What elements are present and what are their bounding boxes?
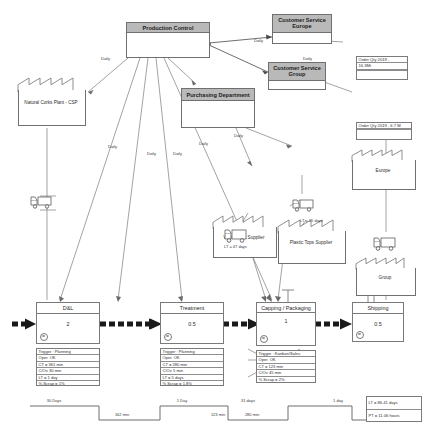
truck-icon-left <box>30 193 56 213</box>
process-3-operators: 0.5 <box>353 314 403 327</box>
schedule-label-2: Daily <box>147 152 156 157</box>
push-arrow-2 <box>223 319 260 330</box>
process-1-operators: 0.5 <box>161 314 223 327</box>
customer-1-label: Group <box>356 275 414 281</box>
schedule-label-1: Daily <box>108 145 117 150</box>
operator-icon <box>260 335 268 343</box>
truck-icon-plastic <box>292 196 318 216</box>
timeline-process-2: 123 min <box>196 412 240 417</box>
data-box-2: Trigger : Kanban/Sales Oper. OK CT = 123… <box>256 350 316 383</box>
operator-icon <box>356 331 364 339</box>
customer-europe-order-box: Order Qty 2019 - 16.3Mt <box>356 56 408 80</box>
data-0-5: % Scrap = 1% <box>37 381 99 386</box>
operator-icon <box>40 333 48 341</box>
process-box-3[interactable]: Shipping 0.5 <box>352 302 404 342</box>
customer-group-order-box: Order Qty 2019 - 6.7 M <box>356 122 412 140</box>
schedule-label-7: Daily <box>303 57 312 62</box>
data-box-1: Trigger : Planning Oper. OK CT = 280 min… <box>160 348 224 386</box>
customer-service-europe-label: Customer Service Europe <box>273 15 331 33</box>
europe-order-line-3 <box>357 70 407 71</box>
transport-lt-0: LT = 47 days <box>224 245 247 250</box>
schedule-label-4: Daily <box>199 142 208 147</box>
truck-icon-shipping <box>373 234 401 256</box>
timeline-lead-3: 1 day <box>318 398 358 403</box>
data-1-5: % Scrap = 1.8% <box>161 381 223 386</box>
total-process-time: PT = 11.06 hours <box>367 410 421 422</box>
purchasing-department-box[interactable]: Purchasing Department <box>181 88 255 128</box>
customer-service-group-label: Customer Service Group <box>269 63 325 81</box>
production-control-box[interactable]: Production Control <box>126 22 210 58</box>
customer-service-europe-box[interactable]: Customer Service Europe <box>272 14 332 44</box>
process-0-name: D&L <box>37 303 99 314</box>
schedule-label-6: Daily <box>254 39 263 44</box>
supplier-0-label: Natural Corks Plant - CSP <box>18 100 84 106</box>
schedule-label-5: Daily <box>234 134 243 139</box>
transport-lt-1: LT = 15 days <box>300 219 323 224</box>
customer-service-group-box[interactable]: Customer Service Group <box>268 62 326 90</box>
value-stream-map-canvas: Production Control Purchasing Department… <box>0 0 428 442</box>
timeline-lead-0: 30 Days <box>34 398 74 403</box>
schedule-label-3: Daily <box>173 152 182 157</box>
process-1-name: Treatment <box>161 303 223 314</box>
operator-icon <box>164 333 172 341</box>
process-2-name: Capping / Packaging <box>257 303 315 313</box>
customer-group-factory[interactable]: Group <box>356 258 414 296</box>
process-0-operators: 2 <box>37 314 99 327</box>
process-2-operators: 1 <box>257 313 315 324</box>
supplier-2-label: Plastic Tops Supplier <box>278 240 344 246</box>
process-3-name: Shipping <box>353 303 403 314</box>
group-order-line-2 <box>357 129 411 130</box>
total-lead-time: LT = 86.41 days <box>367 397 421 410</box>
timeline-process-0: 162 min <box>100 412 144 417</box>
data-box-0: Trigger : Planning Oper. OK CT = 361 min… <box>36 348 100 386</box>
process-box-0[interactable]: D&L 2 <box>36 302 100 344</box>
process-box-2[interactable]: Capping / Packaging 1 <box>256 302 316 346</box>
timeline-lead-2: 31 days <box>228 398 268 403</box>
customer-europe-factory[interactable]: Europe <box>352 150 414 190</box>
production-control-label: Production Control <box>127 23 209 33</box>
supplier-plastic-tops[interactable]: Plastic Tops Supplier <box>278 220 344 264</box>
process-box-1[interactable]: Treatment 0.5 <box>160 302 224 344</box>
schedule-label-0: Daily <box>101 57 110 62</box>
summary-box: LT = 86.41 days PT = 11.06 hours <box>366 396 422 422</box>
purchasing-department-label: Purchasing Department <box>182 89 254 101</box>
supplier-natural-corks-plant[interactable]: Natural Corks Plant - CSP <box>18 78 84 126</box>
push-arrow-3 <box>315 319 352 330</box>
customer-0-label: Europe <box>352 168 414 174</box>
data-2-4: % Scrap = 2% <box>257 377 315 382</box>
timeline-lead-1: 1 Day <box>162 398 202 403</box>
